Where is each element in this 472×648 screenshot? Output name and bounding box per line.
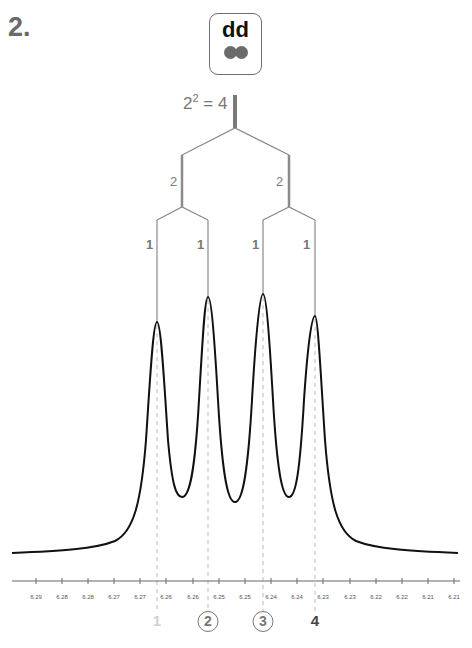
peak-label-3: 3 <box>253 611 274 632</box>
peak-label-4: 4 <box>311 612 319 629</box>
peak-guides <box>157 297 315 612</box>
tick-label: 6.27 <box>134 594 146 600</box>
split-label: 1 <box>197 237 204 252</box>
tick-label: 6.26 <box>160 594 172 600</box>
split-label: 1 <box>146 237 153 252</box>
tick-label: 6.21 <box>448 594 460 600</box>
tick-label: 6.23 <box>344 594 356 600</box>
tick-label: 6.25 <box>213 594 225 600</box>
tick-label: 6.22 <box>396 594 408 600</box>
tick-label: 6.26 <box>187 594 199 600</box>
split-label: 1 <box>252 237 259 252</box>
tick-label: 6.29 <box>30 594 42 600</box>
tick-label: 6.28 <box>56 594 68 600</box>
split-label: 2 <box>170 174 177 189</box>
tick-label: 6.28 <box>82 594 94 600</box>
tick-label: 6.22 <box>370 594 382 600</box>
spectrum-curve <box>12 294 458 553</box>
split-label: 1 <box>303 237 310 252</box>
tick-label: 6.24 <box>265 594 277 600</box>
tick-label: 6.25 <box>239 594 251 600</box>
splitting-tree <box>157 95 315 322</box>
tick-label: 6.21 <box>422 594 434 600</box>
peak-label-1: 1 <box>153 612 161 629</box>
peak-label-2: 2 <box>198 611 219 632</box>
split-label: 2 <box>276 174 283 189</box>
tick-label: 6.27 <box>108 594 120 600</box>
spectrum-diagram <box>0 0 472 648</box>
tick-label: 6.24 <box>291 594 303 600</box>
tick-label: 6.23 <box>317 594 329 600</box>
